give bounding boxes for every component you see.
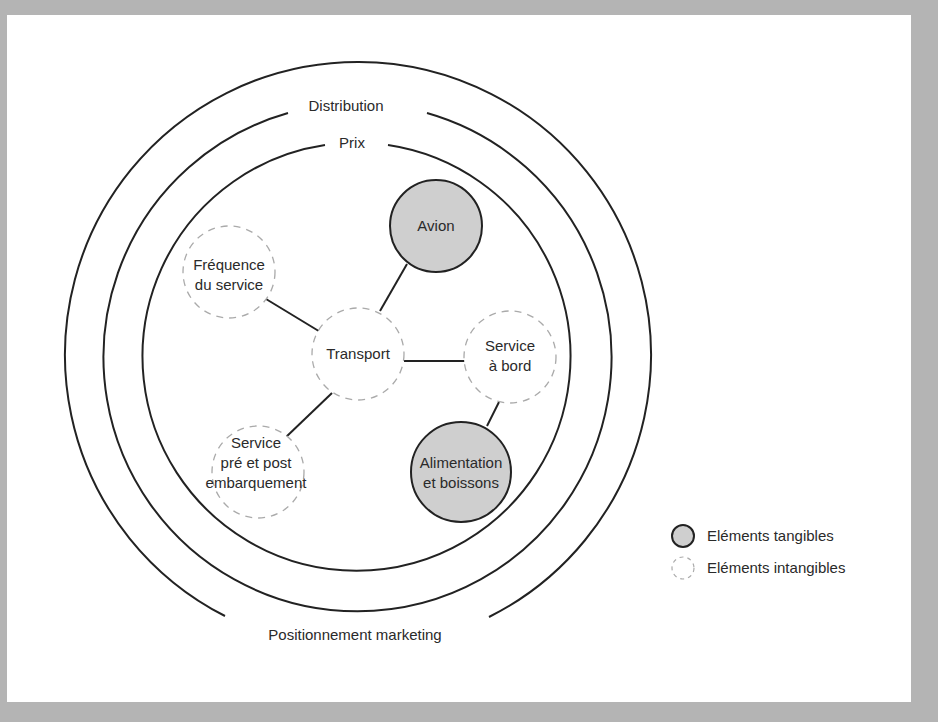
legend-intangible-swatch	[672, 557, 694, 579]
edge-avion-transport	[380, 264, 407, 311]
ring-label-positionnement: Positionnement marketing	[268, 626, 441, 643]
svg-text:à bord: à bord	[489, 357, 532, 374]
svg-text:Service: Service	[231, 434, 281, 451]
svg-text:Alimentation: Alimentation	[420, 454, 503, 471]
svg-text:embarquement: embarquement	[206, 474, 308, 491]
svg-text:Fréquence: Fréquence	[193, 256, 265, 273]
svg-text:Transport: Transport	[326, 345, 390, 362]
ring-label-distribution: Distribution	[308, 97, 383, 114]
svg-text:Service: Service	[485, 337, 535, 354]
svg-text:Avion: Avion	[417, 217, 454, 234]
node-alimentation: Alimentation et boissons	[411, 422, 511, 522]
node-transport: Transport	[312, 308, 404, 400]
edge-frequence-transport	[266, 299, 322, 333]
edge-transport-servicepre	[285, 393, 332, 438]
svg-text:pré et post: pré et post	[221, 454, 293, 471]
node-avion: Avion	[390, 180, 482, 272]
node-frequence: Fréquence du service	[183, 226, 275, 318]
svg-text:du service: du service	[195, 276, 263, 293]
legend-tangible-label: Eléments tangibles	[707, 527, 834, 544]
legend-tangible-swatch	[672, 525, 694, 547]
node-service-bord: Service à bord	[464, 311, 556, 403]
legend-intangible-label: Eléments intangibles	[707, 559, 845, 576]
node-service-pre-post: Service pré et post embarquement	[206, 426, 308, 518]
edge-servicebord-alimentation	[487, 402, 499, 426]
legend: Eléments tangibles Eléments intangibles	[672, 525, 845, 579]
service-diagram: Distribution Prix Positionnement marketi…	[0, 0, 938, 722]
svg-text:et boissons: et boissons	[423, 474, 499, 491]
ring-label-prix: Prix	[339, 134, 365, 151]
